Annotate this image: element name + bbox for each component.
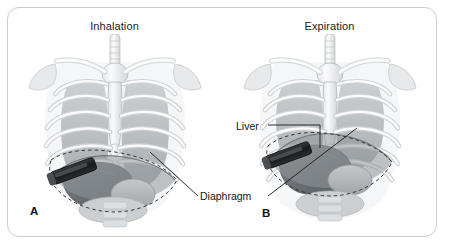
panel-b-illustration	[222, 34, 437, 234]
panel-inhalation: Inhalation	[7, 8, 222, 236]
panel-a-title: Inhalation	[7, 20, 222, 32]
lumbar-spine-a	[103, 202, 127, 227]
lumbar-spine-b	[318, 196, 342, 221]
panel-a-illustration	[7, 34, 222, 234]
anatomy-figure: Inhalation	[0, 0, 449, 250]
panel-letter-a: A	[30, 205, 38, 217]
label-liver: Liver	[236, 120, 259, 132]
panel-b-title: Expiration	[222, 20, 437, 32]
label-diaphragm: Diaphragm	[200, 190, 251, 202]
panel-letter-b: B	[262, 207, 270, 219]
